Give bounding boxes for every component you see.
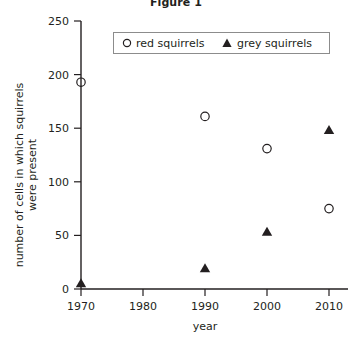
x-tick-label-1990: 1990 [191, 300, 219, 313]
data-point-red-2000 [263, 144, 271, 152]
data-point-red-1990 [201, 112, 209, 120]
y-tick-label-200: 200 [48, 69, 69, 82]
data-point-red-2010 [325, 204, 333, 212]
y-tick-label-100: 100 [48, 176, 69, 189]
data-point-grey-1990 [200, 263, 210, 272]
y-tick-label-150: 150 [48, 122, 69, 135]
legend-label-red-squirrels: red squirrels [136, 37, 205, 50]
y-tick-label-250: 250 [48, 15, 69, 28]
data-point-grey-1970 [76, 278, 86, 287]
x-tick-label-2000: 2000 [253, 300, 281, 313]
scatter-plot: 0 50 100 150 200 250 1970 1980 1990 2000… [0, 0, 352, 337]
legend-label-grey-squirrels: grey squirrels [237, 37, 312, 50]
y-tick-label-50: 50 [55, 229, 69, 242]
y-axis-title-line2: were present [26, 138, 39, 211]
data-point-grey-2010 [324, 125, 334, 134]
x-tick-label-2010: 2010 [315, 300, 343, 313]
figure-container: Figure 1 0 50 100 150 200 250 1970 1980 … [0, 0, 352, 337]
y-tick-label-0: 0 [62, 283, 69, 296]
x-tick-label-1970: 1970 [67, 300, 95, 313]
data-point-grey-2000 [262, 227, 272, 236]
y-axis-title-line1: number of cells in which squirrels [13, 82, 26, 267]
x-axis-title: year [193, 320, 218, 333]
x-tick-label-1980: 1980 [129, 300, 157, 313]
